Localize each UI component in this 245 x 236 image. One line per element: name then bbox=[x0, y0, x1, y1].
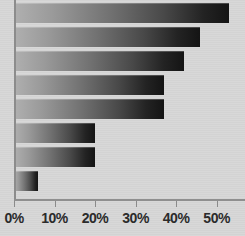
bar-series-value[interactable] bbox=[14, 27, 200, 47]
plot-area bbox=[14, 0, 245, 201]
bar-series-value[interactable] bbox=[14, 75, 164, 95]
category-label-row: s bbox=[0, 99, 14, 119]
category-axis-labels: s s s y s s e er bbox=[0, 0, 14, 201]
x-tick-mark bbox=[217, 201, 218, 207]
category-label-row: s bbox=[0, 27, 14, 47]
category-label-row: s bbox=[0, 123, 14, 143]
category-label-row: s bbox=[0, 51, 14, 71]
bar-series-value[interactable] bbox=[14, 51, 184, 71]
x-tick-label: 10% bbox=[35, 209, 75, 227]
bar-series-value[interactable] bbox=[14, 147, 95, 167]
category-axis-line bbox=[14, 0, 16, 201]
x-tick-mark bbox=[176, 201, 177, 207]
bar-series-value[interactable] bbox=[14, 123, 95, 143]
value-axis-line bbox=[14, 199, 245, 201]
x-tick-mark bbox=[95, 201, 96, 207]
category-label-row: e bbox=[0, 147, 14, 167]
bar-series-value[interactable] bbox=[14, 99, 164, 119]
bar-series-value[interactable] bbox=[14, 171, 38, 191]
x-tick-mark bbox=[136, 201, 137, 207]
x-tick-label: 0% bbox=[0, 209, 34, 227]
x-tick-label: 20% bbox=[75, 209, 115, 227]
category-label-row: s bbox=[0, 3, 14, 23]
x-tick-label: 30% bbox=[116, 209, 156, 227]
x-tick-label: 40% bbox=[156, 209, 196, 227]
category-label-row: y bbox=[0, 75, 14, 95]
bar-chart: s s s y s s e er 0% 10% 20% 30% 40% 50% bbox=[0, 0, 245, 236]
bar-series-value[interactable] bbox=[14, 3, 229, 23]
x-tick-mark bbox=[14, 201, 15, 207]
category-label-row: er bbox=[0, 171, 14, 191]
x-tick-mark bbox=[55, 201, 56, 207]
x-tick-label: 50% bbox=[197, 209, 237, 227]
